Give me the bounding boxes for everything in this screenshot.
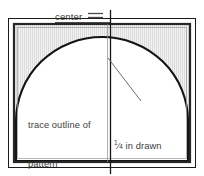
pattern-placement-diagram: center trace outline of pattern 1⁄4 in d… [0, 0, 204, 176]
trace-outline-label: trace outline of pattern [28, 93, 91, 176]
trace-outline-line-1: trace outline of [28, 119, 91, 132]
placement-line-label: 1⁄4 in drawn placement line [114, 110, 175, 176]
center-label: center [55, 10, 82, 23]
trace-outline-line-2: pattern [28, 158, 91, 171]
placement-line-1: 1⁄4 in drawn [114, 136, 175, 153]
placement-line-1-suffix: in drawn [123, 141, 162, 151]
